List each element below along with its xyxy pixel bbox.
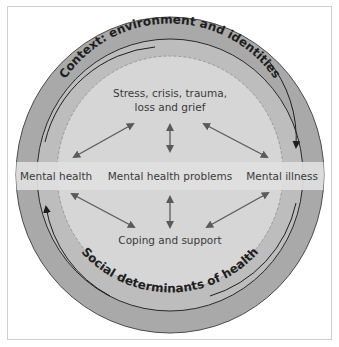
- stress-label-line2: loss and grief: [135, 101, 206, 113]
- mental-health-problems-label: Mental health problems: [108, 170, 232, 182]
- mental-health-label: Mental health: [20, 170, 92, 182]
- coping-label: Coping and support: [118, 234, 221, 246]
- mental-illness-label: Mental illness: [246, 170, 318, 182]
- mental-health-diagram: Context: environment and identities Soci…: [0, 0, 339, 347]
- stress-label-line1: Stress, crisis, trauma,: [113, 87, 227, 99]
